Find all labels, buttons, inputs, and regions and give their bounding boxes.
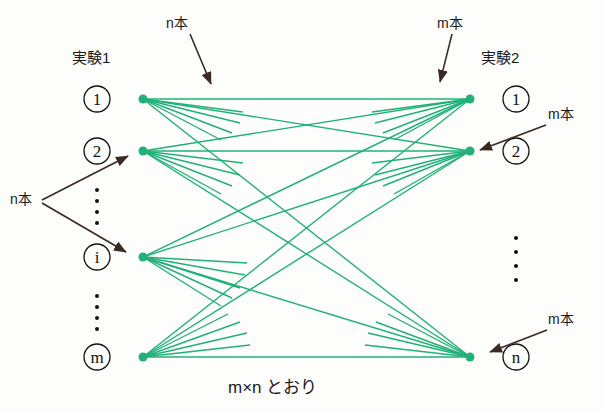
right-node-n: n	[501, 349, 531, 366]
left-node-1: 1	[82, 91, 112, 108]
left-node-m: m	[82, 349, 112, 366]
annotation-right-lower: m本	[548, 312, 574, 326]
diagram-caption: m×n とおり	[228, 379, 317, 396]
diagram-canvas: 実験1 実験2 n本 m本 m本 n本 m本 1 2 i m 1 2 n m×n…	[0, 0, 603, 411]
annotation-top-left: n本	[166, 16, 188, 30]
annotation-right-upper: m本	[548, 107, 574, 121]
annotation-left-mid: n本	[10, 192, 32, 206]
annotation-top-right: m本	[437, 16, 463, 30]
left-node-i: i	[82, 249, 112, 266]
right-node-1: 1	[501, 91, 531, 108]
left-column-title: 実験1	[72, 50, 110, 65]
left-node-2: 2	[82, 143, 112, 160]
annotation-arrows	[42, 34, 547, 352]
right-node-2: 2	[501, 143, 531, 160]
right-fan-stubs	[365, 99, 470, 357]
edge-group	[143, 99, 470, 357]
right-column-title: 実験2	[481, 50, 519, 65]
